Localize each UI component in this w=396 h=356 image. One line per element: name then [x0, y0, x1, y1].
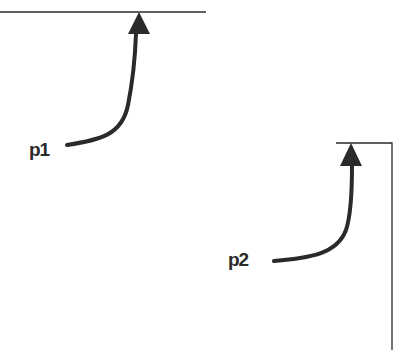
p2-arrow-shaft: [274, 166, 352, 261]
p2-arrowhead-icon: [340, 143, 362, 166]
point-label-p2: p2: [228, 250, 248, 269]
diagram-canvas: [0, 0, 396, 356]
p1-arrow-shaft: [67, 34, 136, 145]
p1-arrowhead-icon: [128, 12, 150, 34]
point-label-p1: p1: [29, 140, 49, 159]
corner-boundary-line: [336, 143, 392, 350]
